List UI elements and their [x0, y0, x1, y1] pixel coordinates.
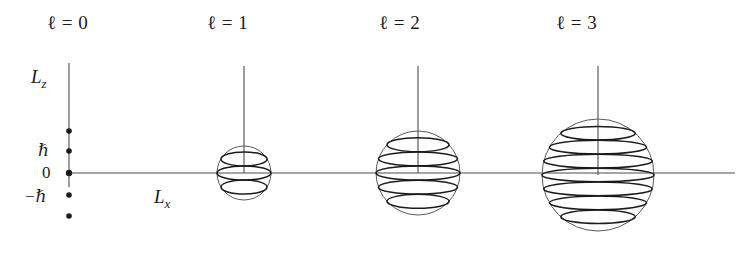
z-axis-label-main: L	[31, 66, 42, 87]
panel-title-l3: ℓ = 3	[556, 12, 597, 34]
lz-tick-dot-1	[66, 148, 72, 154]
lz-tick-dot-3	[66, 192, 72, 198]
angular-momentum-figure: ℓ = 0 ℓ = 1 ℓ = 2 ℓ = 3 Lz Lx ℏ 0 −ℏ	[0, 0, 741, 260]
z-axis-label-sub: z	[42, 76, 47, 91]
m-ring-l3-m-3	[561, 210, 636, 224]
m-ring-l2-m-1	[378, 180, 457, 194]
m-ring-l2-m-2	[387, 194, 449, 208]
x-axis-label-sub: x	[165, 196, 171, 211]
panel-title-l1: ℓ = 1	[207, 12, 248, 34]
lz-tick-dot-4	[66, 213, 72, 219]
tick-label-minus-hbar: −ℏ	[24, 186, 46, 207]
m-ring-l1-m-1	[221, 180, 267, 194]
figure-canvas	[0, 0, 741, 260]
panel-title-l0: ℓ = 0	[47, 12, 88, 34]
lz-tick-dot-0	[66, 128, 72, 134]
x-axis-label: Lx	[154, 186, 170, 212]
m-ring-l3-m-2	[549, 196, 646, 210]
x-axis-label-main: L	[154, 186, 165, 207]
z-axis-label: Lz	[31, 66, 47, 92]
tick-label-zero: 0	[42, 163, 51, 183]
m-ring-l3-m-1	[544, 182, 652, 196]
tick-label-plus-hbar: ℏ	[38, 140, 49, 161]
lz-tick-dot-2	[66, 170, 72, 176]
panel-title-l2: ℓ = 2	[379, 12, 420, 34]
